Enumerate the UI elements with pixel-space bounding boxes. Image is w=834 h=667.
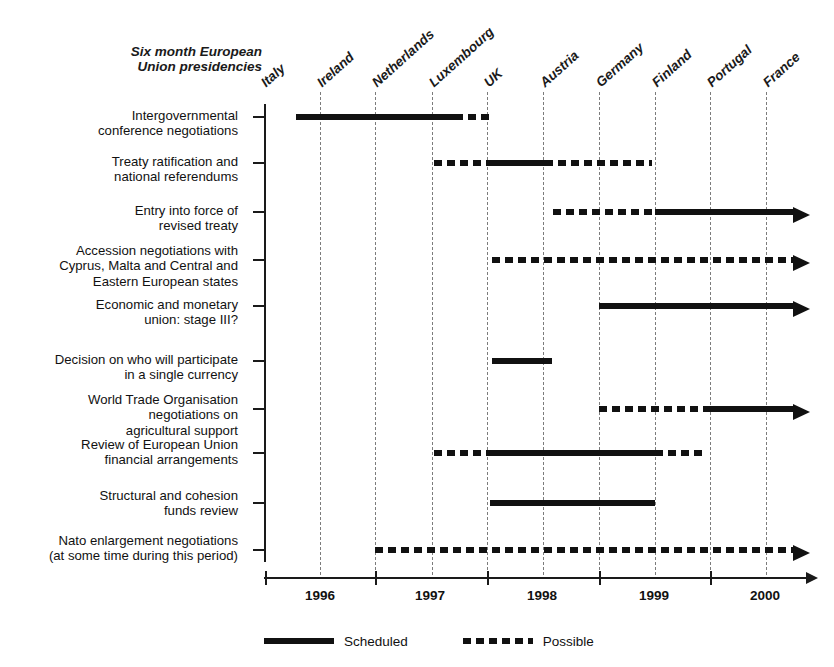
presidency-label-italy: Italy — [258, 61, 288, 90]
bar-row — [0, 303, 834, 311]
presidency-label-finland: Finland — [649, 47, 695, 90]
presidency-label-portugal: Portugal — [704, 42, 755, 90]
bar-arrow-icon — [793, 255, 810, 271]
year-tick-1997 — [375, 571, 377, 585]
bar-segment-solid — [296, 114, 455, 120]
bar-row — [0, 450, 834, 458]
scheduled-swatch-icon — [264, 638, 334, 644]
year-tick-1996 — [265, 571, 267, 585]
bar-segment-dash — [434, 450, 487, 456]
bar-row — [0, 547, 834, 555]
bar-arrow-icon — [793, 207, 810, 223]
bar-segment-dash — [553, 209, 655, 215]
year-label-1998: 1998 — [512, 588, 572, 603]
row-label-line: in a single currency — [55, 367, 238, 382]
row-label-line: revised treaty — [135, 218, 238, 233]
year-label-1997: 1997 — [400, 588, 460, 603]
year-tick-1998 — [487, 571, 489, 585]
row-label-2: Entry into force ofrevised treaty — [135, 203, 238, 234]
caption-line-1: Six month European — [92, 44, 262, 59]
timeline-chart: Six month European Union presidencies It… — [0, 0, 834, 667]
caption-line-2: Union presidencies — [92, 59, 262, 74]
bar-segment-dash — [492, 257, 793, 263]
bar-segment-solid — [487, 450, 655, 456]
bar-segment-dash — [545, 160, 652, 166]
bar-row — [0, 160, 834, 168]
bar-segment-dash — [375, 547, 793, 553]
vertical-axis — [264, 104, 266, 562]
legend-item-possible: Possible — [463, 634, 594, 649]
bar-segment-dash — [599, 406, 708, 412]
row-label-line: agricultural support — [88, 423, 238, 438]
presidency-label-ireland: Ireland — [314, 49, 357, 90]
bar-segment-dash — [434, 160, 488, 166]
bar-segment-solid — [599, 303, 793, 309]
legend: Scheduled Possible — [264, 630, 684, 650]
row-label-line: conference negotiations — [98, 123, 238, 138]
row-label-0: Intergovernmentalconference negotiations — [98, 108, 238, 139]
year-tick-2000 — [710, 571, 712, 585]
presidency-label-uk: UK — [481, 66, 506, 90]
row-label-line: Eastern European states — [59, 274, 238, 289]
year-label-2000: 2000 — [735, 588, 795, 603]
bar-row — [0, 406, 834, 414]
axis-arrow-icon — [806, 572, 818, 584]
presidency-label-germany: Germany — [593, 40, 647, 90]
presidency-label-france: France — [760, 49, 803, 90]
row-label-3: Accession negotiations withCyprus, Malta… — [59, 243, 238, 289]
bar-row — [0, 500, 834, 508]
bar-arrow-icon — [793, 404, 810, 420]
row-label-5: Decision on who will participatein a sin… — [55, 352, 238, 383]
row-label-line: union: stage III? — [96, 312, 238, 327]
row-label-4: Economic and monetaryunion: stage III? — [96, 297, 238, 328]
year-tick-1999 — [599, 571, 601, 585]
bar-row — [0, 209, 834, 217]
bar-segment-solid — [708, 406, 793, 412]
bar-segment-solid — [492, 358, 552, 364]
bar-row — [0, 358, 834, 366]
bar-arrow-icon — [793, 301, 810, 317]
presidencies-caption: Six month European Union presidencies — [92, 44, 262, 74]
presidency-label-austria: Austria — [537, 48, 582, 90]
bar-segment-solid — [655, 209, 793, 215]
bar-row — [0, 114, 834, 122]
legend-item-scheduled: Scheduled — [264, 634, 408, 649]
year-label-1996: 1996 — [290, 588, 350, 603]
bar-segment-dash — [455, 114, 489, 120]
horizontal-axis — [264, 577, 809, 579]
year-label-1999: 1999 — [624, 588, 684, 603]
row-label-6: World Trade Organisationnegotiations ona… — [88, 392, 238, 438]
legend-label-possible: Possible — [543, 634, 594, 649]
row-label-line: national referendums — [112, 169, 238, 184]
bar-row — [0, 257, 834, 265]
row-label-1: Treaty ratification andnational referend… — [112, 154, 238, 185]
bar-arrow-icon — [793, 545, 810, 561]
bar-segment-dash — [655, 450, 707, 456]
bar-segment-solid — [490, 500, 655, 506]
legend-label-scheduled: Scheduled — [344, 634, 408, 649]
bar-segment-solid — [488, 160, 545, 166]
possible-swatch-icon — [463, 638, 533, 644]
